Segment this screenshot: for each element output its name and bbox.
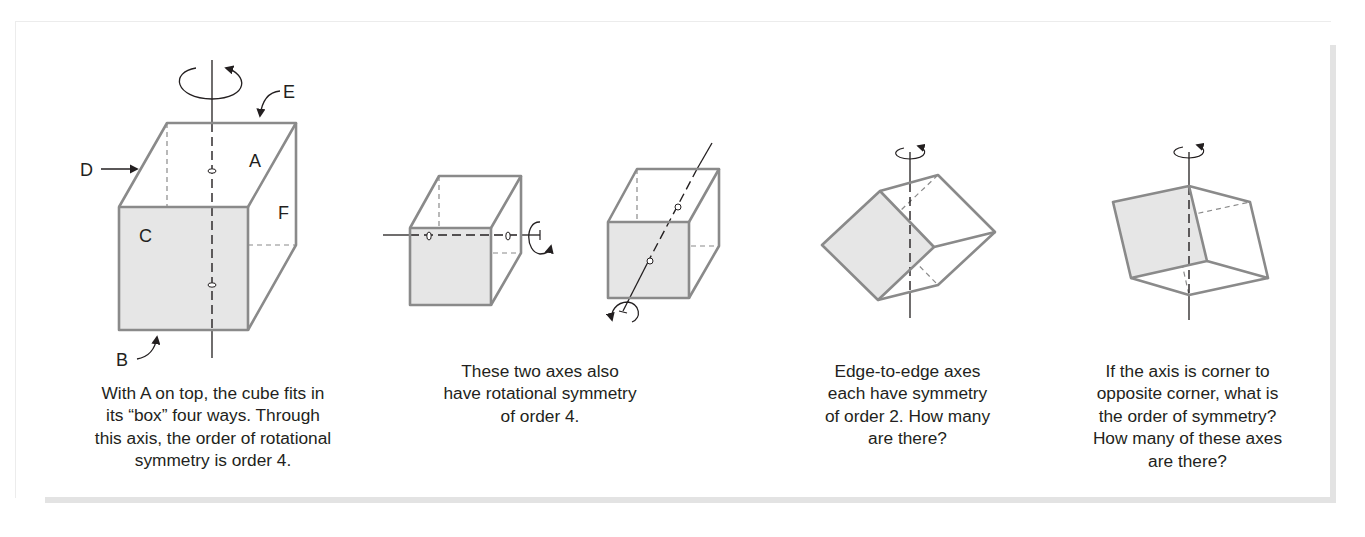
label-d: D (80, 160, 93, 180)
cube-edge-axis-figure (822, 146, 995, 318)
cube-horizontal-axis-figure (383, 176, 551, 305)
cube-corner-axis-figure (1113, 145, 1268, 320)
label-c: C (139, 226, 152, 246)
label-b: B (116, 350, 128, 370)
arrow-b-icon (137, 337, 157, 359)
label-f: F (278, 203, 289, 223)
label-e: E (283, 82, 295, 102)
caption-face-axis: With A on top, the cube fits in its “box… (52, 382, 374, 472)
label-a: A (249, 151, 261, 171)
caption-corner-axes: If the axis is corner to opposite corner… (1060, 360, 1315, 472)
caption-edge-axes: Edge-to-edge axes each have symmetry of … (795, 360, 1020, 450)
cube-depth-axis-figure (608, 143, 719, 322)
caption-other-face-axes: These two axes also have rotational symm… (420, 360, 660, 427)
cube-face-axis-figure: A F C D E B (80, 60, 296, 370)
arrow-e-icon (260, 91, 280, 116)
